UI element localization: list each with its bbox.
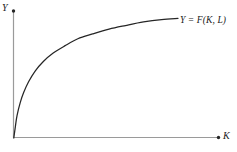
- x-axis-end-marker-icon: [217, 136, 220, 139]
- y-axis-end-marker-icon: [12, 9, 15, 12]
- production-function-figure: Y K Y = F(K, L): [0, 0, 237, 152]
- x-axis-label: K: [223, 131, 230, 141]
- y-axis-label: Y: [2, 3, 8, 13]
- curve-equation-label: Y = F(K, L): [180, 16, 226, 26]
- production-function-curve: [14, 18, 178, 138]
